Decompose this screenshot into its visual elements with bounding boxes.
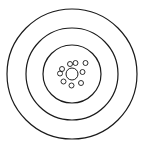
ring-group [7, 9, 137, 139]
middle-ring [26, 28, 118, 120]
particle-circle [58, 71, 63, 76]
particle-circle [79, 81, 84, 86]
particle-circle [68, 62, 73, 67]
particle-circle [69, 83, 74, 88]
concentric-circles-diagram [0, 0, 148, 151]
particle-circle [83, 61, 88, 66]
particle-circle [80, 70, 85, 75]
particle-circle [61, 79, 66, 84]
inner-ring [43, 45, 101, 103]
nucleus-circle [66, 68, 78, 80]
nucleus-group [66, 68, 78, 80]
diagram-canvas [0, 0, 148, 151]
particle-circle [73, 61, 78, 66]
particle-group [58, 61, 89, 89]
